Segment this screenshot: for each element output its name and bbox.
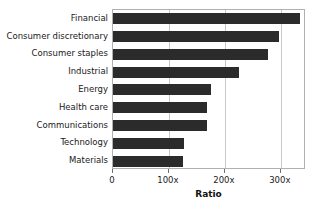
x-tick-mark <box>224 169 225 173</box>
x-tick-mark <box>112 169 113 173</box>
bars-layer <box>113 10 304 168</box>
x-tick-label: 200x <box>213 175 234 185</box>
bar <box>113 102 207 113</box>
y-axis-label: Consumer discretionary <box>0 31 108 41</box>
bar <box>113 49 268 60</box>
y-axis-label: Health care <box>0 102 108 112</box>
x-axis-title: Ratio <box>112 189 305 199</box>
bar-row <box>113 10 306 28</box>
x-tick-label: 0 <box>109 175 114 185</box>
x-tick-mark <box>280 169 281 173</box>
bar-row <box>113 46 306 64</box>
y-axis-label: Technology <box>0 137 108 147</box>
y-axis-label: Financial <box>0 13 108 23</box>
y-axis-category-labels: FinancialConsumer discretionaryConsumer … <box>0 9 108 169</box>
y-axis-label: Industrial <box>0 66 108 76</box>
bar <box>113 67 239 78</box>
bar <box>113 138 184 149</box>
bar-row <box>113 63 306 81</box>
y-axis-label: Consumer staples <box>0 48 108 58</box>
bar <box>113 31 279 42</box>
bar <box>113 120 207 131</box>
plot-area <box>112 9 305 169</box>
bar-row <box>113 99 306 117</box>
bar-chart: FinancialConsumer discretionaryConsumer … <box>0 0 317 210</box>
y-axis-label: Energy <box>0 84 108 94</box>
x-tick-mark <box>168 169 169 173</box>
bar-row <box>113 81 306 99</box>
bar <box>113 156 183 167</box>
bar <box>113 13 300 24</box>
bar-row <box>113 152 306 170</box>
x-tick-label: 100x <box>157 175 178 185</box>
bar <box>113 84 211 95</box>
bar-row <box>113 117 306 135</box>
y-axis-label: Communications <box>0 120 108 130</box>
bar-row <box>113 28 306 46</box>
bar-row <box>113 134 306 152</box>
y-axis-label: Materials <box>0 155 108 165</box>
x-tick-label: 300x <box>269 175 290 185</box>
